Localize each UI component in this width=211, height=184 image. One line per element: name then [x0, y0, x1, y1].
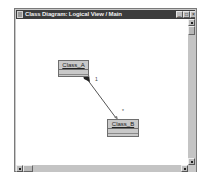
class-name: Class_A	[59, 61, 88, 70]
association-line[interactable]	[16, 19, 188, 165]
diagram-canvas[interactable]: Class_A Class_B 1 *	[16, 19, 188, 165]
window-title: Class Diagram: Logical View / Main	[25, 10, 122, 19]
horizontal-scroll-thumb[interactable]	[23, 165, 33, 172]
diagram-window: Class Diagram: Logical View / Main _ □ ×…	[14, 8, 197, 172]
class-name: Class_B	[108, 120, 138, 129]
maximize-button[interactable]: □	[183, 11, 190, 18]
scroll-right-button[interactable]	[181, 165, 188, 172]
class-box-a[interactable]: Class_A	[58, 60, 89, 77]
horizontal-scrollbar[interactable]	[16, 165, 188, 172]
operations-compartment	[108, 134, 138, 137]
multiplicity-label-a: 1	[95, 77, 98, 82]
multiplicity-label-b: *	[122, 109, 124, 114]
minimize-button[interactable]: _	[176, 11, 183, 18]
scroll-down-button[interactable]	[188, 158, 195, 165]
vertical-scrollbar[interactable]	[188, 19, 196, 165]
vertical-scroll-thumb[interactable]	[188, 26, 195, 35]
title-bar[interactable]: Class Diagram: Logical View / Main _ □ ×	[16, 10, 195, 19]
close-button[interactable]: ×	[190, 11, 195, 18]
system-menu-icon[interactable]	[17, 11, 23, 18]
size-grip[interactable]	[188, 165, 196, 172]
operations-compartment	[59, 75, 88, 78]
scroll-up-button[interactable]	[188, 19, 195, 26]
class-box-b[interactable]: Class_B	[107, 119, 139, 137]
scroll-left-button[interactable]	[16, 165, 23, 172]
